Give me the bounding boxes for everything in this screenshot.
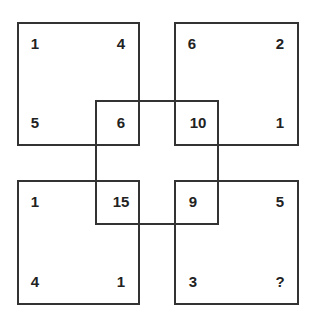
top-left-tl-number: 1 <box>31 36 39 51</box>
top-right-tr-number: 2 <box>276 36 284 51</box>
top-right-br-number: 1 <box>276 115 284 130</box>
bottom-right-br-unknown: ? <box>275 274 284 289</box>
bottom-right-tr-number: 5 <box>276 194 284 209</box>
top-left-bl-number: 5 <box>31 115 39 130</box>
bottom-right-bl-number: 3 <box>189 274 197 289</box>
top-left-tr-number: 4 <box>117 36 125 51</box>
top-right-tl-number: 6 <box>188 36 196 51</box>
bottom-left-br-number: 1 <box>117 274 125 289</box>
bottom-left-tl-number: 1 <box>31 194 39 209</box>
top-left-br-number: 6 <box>117 115 125 130</box>
bottom-right-tl-number: 9 <box>189 194 197 209</box>
bottom-left-tr-number: 15 <box>113 194 130 209</box>
top-right-bl-number: 10 <box>190 115 207 130</box>
bottom-left-bl-number: 4 <box>31 274 39 289</box>
